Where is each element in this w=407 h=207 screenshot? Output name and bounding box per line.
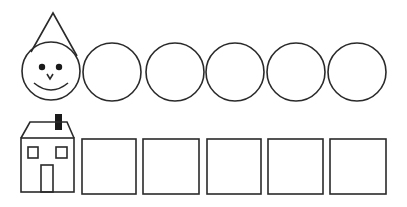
circle-row xyxy=(22,13,386,101)
empty-square-3 xyxy=(207,139,261,194)
window-right xyxy=(56,147,67,158)
empty-circle-3 xyxy=(206,43,264,101)
face-circle xyxy=(22,42,80,100)
clown-face xyxy=(22,13,80,100)
empty-square-5 xyxy=(330,139,386,194)
left-eye xyxy=(39,64,45,70)
empty-circle-1 xyxy=(83,43,141,101)
roof xyxy=(21,122,74,138)
empty-circle-5 xyxy=(328,43,386,101)
empty-circles xyxy=(83,43,386,101)
worksheet-canvas xyxy=(0,0,407,207)
empty-square-2 xyxy=(143,139,199,194)
empty-square-1 xyxy=(82,139,136,194)
empty-squares xyxy=(82,139,386,194)
empty-square-4 xyxy=(268,139,323,194)
house-icon xyxy=(21,114,74,192)
door xyxy=(41,165,53,192)
square-row xyxy=(21,114,386,194)
empty-circle-4 xyxy=(267,43,325,101)
empty-circle-2 xyxy=(146,43,204,101)
smile-mouth xyxy=(34,83,68,90)
nose xyxy=(47,74,53,79)
window-left xyxy=(28,147,38,158)
right-eye xyxy=(56,64,62,70)
